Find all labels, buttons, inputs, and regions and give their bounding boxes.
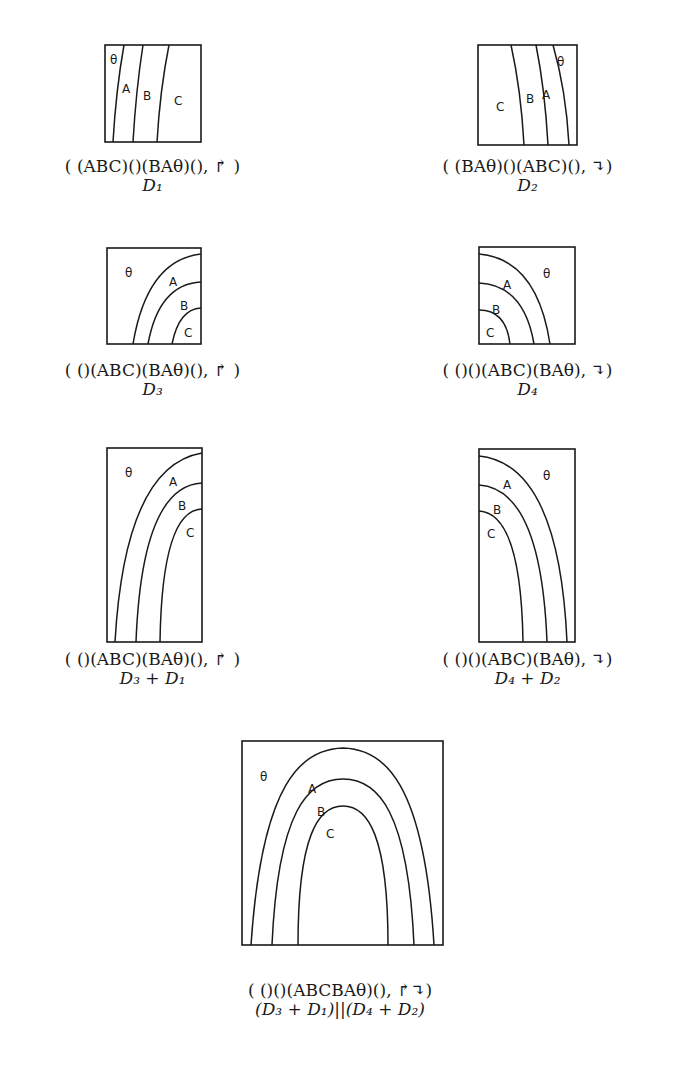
panel-combined: θ A B C: [242, 741, 444, 946]
label-a: A: [542, 88, 551, 102]
diagram-d4-plus-d2: θ A B C: [479, 449, 576, 643]
diagram-d2: θ A B C: [478, 45, 578, 146]
caption-d3-plus-d1: ( ()(ABC)(BAθ)(), ↱ ) D₃ + D₁: [20, 650, 285, 688]
panel-d4: θ A B C: [479, 247, 576, 345]
panel-d4-plus-d2: θ A B C: [479, 449, 576, 643]
label-theta: θ: [110, 53, 117, 67]
label-a: A: [169, 475, 178, 489]
formula-d1: ( (ABC)()(BAθ)(), ↱ ): [20, 157, 285, 176]
diagram-d1: θ A B C: [105, 45, 202, 143]
label-c: C: [174, 94, 182, 108]
formula-d2: ( (BAθ)()(ABC)(), ↴): [400, 157, 655, 176]
diagram-d4: θ A B C: [479, 247, 576, 345]
caption-d2: ( (BAθ)()(ABC)(), ↴) D₂: [400, 157, 655, 195]
caption-combined: ( ()()(ABCBAθ)(), ↱↴) (D₃ + D₁)||(D₄ + D…: [185, 981, 495, 1019]
label-b: B: [526, 92, 534, 106]
formula-d3: ( ()(ABC)(BAθ)(), ↱ ): [20, 361, 285, 380]
label-c: C: [186, 526, 194, 540]
label-a: A: [503, 478, 512, 492]
name-combined: (D₃ + D₁)||(D₄ + D₂): [185, 1000, 495, 1019]
panel-d2: θ A B C: [478, 45, 578, 146]
panel-d1: θ A B C: [105, 45, 202, 143]
label-theta: θ: [543, 469, 550, 483]
label-b: B: [143, 89, 151, 103]
caption-d4-plus-d2: ( ()()(ABC)(BAθ), ↴) D₄ + D₂: [400, 650, 655, 688]
name-d4: D₄: [400, 380, 655, 399]
label-a: A: [122, 82, 131, 96]
label-c: C: [184, 326, 192, 340]
formula-d4: ( ()()(ABC)(BAθ), ↴): [400, 361, 655, 380]
label-b: B: [492, 303, 500, 317]
label-theta: θ: [125, 466, 132, 480]
label-c: C: [496, 100, 504, 114]
label-c: C: [326, 827, 334, 841]
panel-d3: θ A B C: [107, 248, 202, 345]
formula-d4-plus-d2: ( ()()(ABC)(BAθ), ↴): [400, 650, 655, 669]
label-b: B: [178, 499, 186, 513]
label-theta: θ: [260, 770, 267, 784]
name-d3: D₃: [20, 380, 285, 399]
caption-d1: ( (ABC)()(BAθ)(), ↱ ) D₁: [20, 157, 285, 195]
label-a: A: [169, 275, 178, 289]
label-b: B: [317, 805, 325, 819]
label-theta: θ: [543, 267, 550, 281]
label-c: C: [486, 326, 494, 340]
name-d1: D₁: [20, 176, 285, 195]
label-theta: θ: [125, 266, 132, 280]
label-c: C: [487, 527, 495, 541]
label-a: A: [503, 278, 512, 292]
diagram-combined: θ A B C: [242, 741, 444, 946]
diagram-d3: θ A B C: [107, 248, 202, 345]
label-theta: θ: [557, 55, 564, 69]
formula-d3-plus-d1: ( ()(ABC)(BAθ)(), ↱ ): [20, 650, 285, 669]
caption-d3: ( ()(ABC)(BAθ)(), ↱ ) D₃: [20, 361, 285, 399]
name-d2: D₂: [400, 176, 655, 195]
caption-d4: ( ()()(ABC)(BAθ), ↴) D₄: [400, 361, 655, 399]
name-d4-plus-d2: D₄ + D₂: [400, 669, 655, 688]
panel-d3-plus-d1: θ A B C: [107, 448, 203, 643]
name-d3-plus-d1: D₃ + D₁: [20, 669, 285, 688]
formula-combined: ( ()()(ABCBAθ)(), ↱↴): [185, 981, 495, 1000]
diagram-d3-plus-d1: θ A B C: [107, 448, 203, 643]
label-b: B: [180, 299, 188, 313]
label-b: B: [493, 503, 501, 517]
label-a: A: [308, 782, 317, 796]
